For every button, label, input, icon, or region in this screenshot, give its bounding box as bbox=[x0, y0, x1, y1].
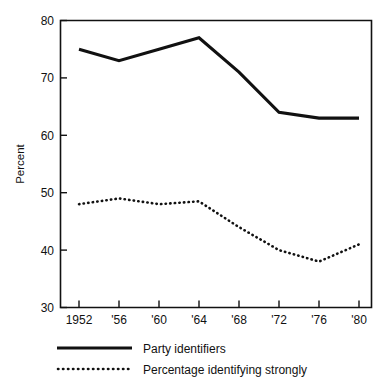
y-tick-label-40: 40 bbox=[41, 244, 55, 258]
figure-background bbox=[0, 0, 388, 388]
x-tick-label-1952: 1952 bbox=[66, 313, 93, 327]
x-tick-label-80: '80 bbox=[351, 313, 367, 327]
x-tick-label-60: '60 bbox=[151, 313, 167, 327]
y-tick-label-60: 60 bbox=[41, 129, 55, 143]
x-tick-label-76: '76 bbox=[311, 313, 327, 327]
y-tick-label-70: 70 bbox=[41, 71, 55, 85]
y-tick-label-30: 30 bbox=[41, 301, 55, 315]
x-tick-label-68: '68 bbox=[231, 313, 247, 327]
x-tick-label-64: '64 bbox=[191, 313, 207, 327]
line-chart-figure: 80 70 60 50 40 30 Percent 1952 '56 '60 '… bbox=[0, 0, 388, 388]
y-axis-title: Percent bbox=[14, 143, 26, 183]
y-tick-label-80: 80 bbox=[41, 14, 55, 28]
legend-label-identifying-strongly: Percentage identifying strongly bbox=[143, 363, 307, 377]
x-tick-label-56: '56 bbox=[111, 313, 127, 327]
y-tick-label-50: 50 bbox=[41, 186, 55, 200]
legend-label-party-identifiers: Party identifiers bbox=[143, 342, 226, 356]
x-tick-label-72: '72 bbox=[271, 313, 287, 327]
